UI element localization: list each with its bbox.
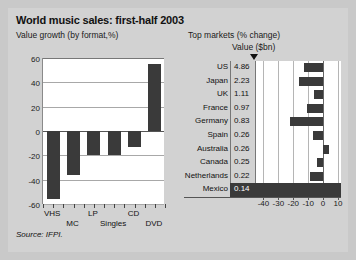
market-name-label: Canada <box>200 157 228 166</box>
left-chart-subtitle: Value growth (by format,%) <box>16 30 118 40</box>
left-x-tick-edge <box>84 204 85 208</box>
table-row: UK1.11 <box>184 88 348 102</box>
value-text: 0.26 <box>234 144 250 153</box>
right-bar <box>290 117 323 126</box>
value-text: 0.26 <box>234 130 250 139</box>
right-bar <box>314 90 323 99</box>
left-y-tick-label: 40 <box>31 79 40 88</box>
left-plot-area: 6040200-20-40-60 <box>42 58 164 204</box>
row-bar-area <box>256 143 341 157</box>
left-x-tick <box>94 204 95 208</box>
left-y-tick-label: -40 <box>28 176 40 185</box>
value-cell: 1.11 <box>230 88 256 102</box>
left-gridline: -20 <box>43 155 164 156</box>
left-category-label: MC <box>66 219 78 228</box>
left-x-tick <box>155 204 156 208</box>
right-bar <box>299 77 323 86</box>
value-text: 2.23 <box>234 76 250 85</box>
right-bar <box>323 145 329 154</box>
right-x-tick-mark <box>263 197 264 200</box>
table-row: Germany0.83 <box>184 115 348 129</box>
row-bar-area <box>256 61 341 75</box>
right-chart-subtitle: Top markets (% change) <box>188 30 280 40</box>
left-x-tick-edge <box>43 204 44 208</box>
left-x-tick <box>114 204 115 208</box>
left-bar <box>148 64 161 131</box>
left-bar <box>128 131 141 147</box>
table-row: Mexico0.14 <box>184 183 348 197</box>
market-name-label: US <box>217 62 228 71</box>
value-cell: 0.26 <box>230 143 256 157</box>
right-bar <box>304 63 323 72</box>
left-y-tick-label: -60 <box>28 201 40 210</box>
left-category-label: DVD <box>145 219 162 228</box>
left-x-tick-edge <box>145 204 146 208</box>
left-x-tick-edge <box>124 204 125 208</box>
market-name-label: Japan <box>206 76 228 85</box>
left-bar <box>87 131 100 155</box>
market-name-label: France <box>203 103 228 112</box>
left-gridline: 60 <box>43 58 164 59</box>
value-text: 0.14 <box>234 184 250 193</box>
left-bar <box>108 131 121 155</box>
right-x-tick-label: -40 <box>258 199 270 208</box>
right-x-tick-label: 10 <box>334 199 343 208</box>
table-row: US4.86 <box>184 61 348 75</box>
left-category-label: VHS <box>44 209 60 218</box>
value-cell: 0.22 <box>230 170 256 184</box>
row-bar-area <box>256 75 341 89</box>
table-row: Australia0.26 <box>184 143 348 157</box>
chart-figure: World music sales: first-half 2003 Value… <box>8 8 348 252</box>
left-bar <box>47 131 60 199</box>
market-name-label: Mexico <box>203 184 228 193</box>
left-category-label: LP <box>88 209 98 218</box>
left-gridline: 40 <box>43 82 164 83</box>
right-x-tick-mark <box>338 197 339 200</box>
table-row: Spain0.26 <box>184 129 348 143</box>
left-bar <box>67 131 80 175</box>
markets-table: US4.86Japan2.23UK1.11France0.97Germany0.… <box>184 61 348 197</box>
right-bar <box>307 104 323 113</box>
row-bar-area <box>256 102 341 116</box>
row-bar-area <box>256 183 341 197</box>
triangle-marker-icon <box>250 54 258 60</box>
value-text: 0.83 <box>234 116 250 125</box>
left-x-tick-edge <box>104 204 105 208</box>
table-row: Japan2.23 <box>184 75 348 89</box>
left-gridline: -40 <box>43 180 164 181</box>
value-text: 4.86 <box>234 62 250 71</box>
left-x-tick-edge <box>165 204 166 208</box>
right-x-tick-mark <box>323 197 324 200</box>
value-cell: 2.23 <box>230 75 256 89</box>
value-cell: 0.14 <box>230 183 256 197</box>
right-x-tick-mark <box>278 197 279 200</box>
value-cell: 0.26 <box>230 129 256 143</box>
right-bar <box>313 131 323 140</box>
market-name-label: Australia <box>197 144 228 153</box>
left-y-tick-label: 60 <box>31 55 40 64</box>
right-x-tick-label: -20 <box>287 199 299 208</box>
left-y-tick-label: 0 <box>36 128 40 137</box>
row-bar-area <box>256 88 341 102</box>
left-category-label: Singles <box>100 219 126 228</box>
value-column-header: Value ($bn) <box>232 42 275 52</box>
left-bar-chart: 6040200-20-40-60 VHSMCLPSinglesCDDVD <box>16 48 176 223</box>
right-x-tick-label: -10 <box>302 199 314 208</box>
value-cell: 4.86 <box>230 61 256 75</box>
right-bar <box>317 158 323 167</box>
row-bar-area <box>256 115 341 129</box>
left-y-tick-label: -20 <box>28 152 40 161</box>
market-name-label: Netherlands <box>185 171 228 180</box>
left-x-tick <box>74 204 75 208</box>
left-x-tick <box>135 204 136 208</box>
left-gridline: 20 <box>43 107 164 108</box>
value-cell: 0.83 <box>230 115 256 129</box>
value-text: 0.25 <box>234 157 250 166</box>
market-name-label: Spain <box>208 130 228 139</box>
value-cell: 0.25 <box>230 156 256 170</box>
table-row: Netherlands0.22 <box>184 170 348 184</box>
table-row: France0.97 <box>184 102 348 116</box>
left-y-tick-label: 20 <box>31 103 40 112</box>
right-x-tick-mark <box>293 197 294 200</box>
right-x-tick-label: -30 <box>273 199 285 208</box>
